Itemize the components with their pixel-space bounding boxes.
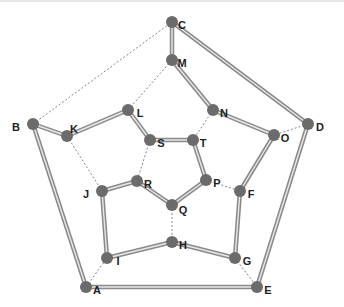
node-label-D: D <box>316 121 324 133</box>
node-label-N: N <box>220 107 228 119</box>
node-label-R: R <box>144 178 152 190</box>
node-label-C: C <box>178 19 186 31</box>
dodecahedron-graph: CMLNBDKSTOJRPFQHIGAE <box>0 0 344 307</box>
graph-nodes <box>27 16 314 293</box>
node-label-Q: Q <box>179 204 188 216</box>
node-label-G: G <box>243 255 252 267</box>
node-label-O: O <box>281 132 290 144</box>
node-R <box>131 175 143 187</box>
node-label-K: K <box>70 123 78 135</box>
cycle-edge-D-C <box>172 22 308 124</box>
node-label-S: S <box>157 137 164 149</box>
cycle-edge-I-J <box>102 191 107 258</box>
node-J <box>96 185 108 197</box>
node-Q <box>166 199 178 211</box>
cycle-edge-O-F <box>240 135 274 191</box>
node-B <box>27 118 39 130</box>
node-N <box>207 104 219 116</box>
node-F <box>234 185 246 197</box>
node-M <box>166 54 178 66</box>
dashed-edge-K-J <box>67 136 102 191</box>
node-T <box>187 134 199 146</box>
node-E <box>251 281 263 293</box>
cycle-edge-R-Q <box>137 181 172 205</box>
dashed-edge-B-C <box>33 22 172 124</box>
node-I <box>101 252 113 264</box>
cycle-edge-Q-P <box>172 180 206 205</box>
node-label-J: J <box>83 188 89 200</box>
node-label-H: H <box>179 239 187 251</box>
node-G <box>229 252 241 264</box>
node-P <box>200 174 212 186</box>
node-L <box>122 104 134 116</box>
node-D <box>302 118 314 130</box>
node-label-T: T <box>200 137 207 149</box>
node-label-A: A <box>93 284 101 296</box>
node-O <box>268 129 280 141</box>
dashed-edge-L-M <box>128 60 172 110</box>
node-label-M: M <box>177 57 186 69</box>
cycle-edge-B-A <box>33 124 86 287</box>
node-S <box>144 134 156 146</box>
cycle-edge-F-G <box>235 191 240 258</box>
node-label-B: B <box>12 121 20 133</box>
dashed-edge-S-R <box>137 140 150 181</box>
node-A <box>80 281 92 293</box>
node-H <box>166 236 178 248</box>
node-C <box>166 16 178 28</box>
node-label-P: P <box>213 177 220 189</box>
node-label-L: L <box>137 107 144 119</box>
node-label-F: F <box>248 188 255 200</box>
node-label-I: I <box>116 255 119 267</box>
node-label-E: E <box>264 284 271 296</box>
